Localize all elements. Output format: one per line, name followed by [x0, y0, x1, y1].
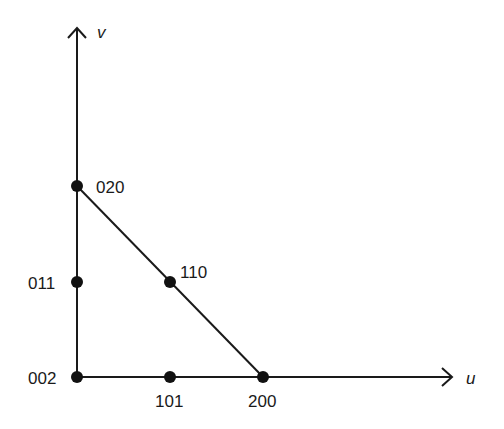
label-020: 020 [96, 178, 124, 197]
point-110 [164, 276, 176, 288]
v-axis-label: v [97, 23, 107, 42]
triangle-lattice-diagram: v u 002 101 200 011 110 020 [0, 0, 504, 429]
label-011: 011 [28, 274, 55, 293]
label-002: 002 [28, 369, 56, 388]
point-020 [71, 180, 83, 192]
u-axis-label: u [466, 369, 476, 388]
label-110: 110 [180, 263, 207, 282]
point-011 [71, 276, 83, 288]
point-101 [164, 371, 176, 383]
label-200: 200 [248, 392, 276, 411]
point-002 [71, 371, 83, 383]
label-101: 101 [155, 392, 183, 411]
point-200 [257, 371, 269, 383]
